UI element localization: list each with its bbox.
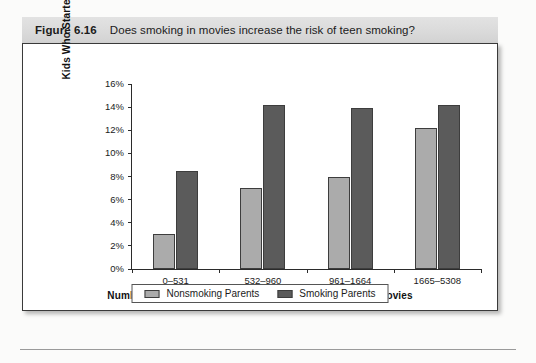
legend-item: Smoking Parents bbox=[277, 288, 375, 299]
y-axis-tick-label: 2% bbox=[110, 240, 128, 252]
y-axis-ticks: 0%2%4%6%8%10%12%14%16% bbox=[23, 44, 131, 312]
y-axis-tick-label: 8% bbox=[110, 171, 128, 183]
page-divider-rule bbox=[20, 349, 516, 350]
figure-caption: Does smoking in movies increase the risk… bbox=[110, 24, 415, 36]
x-axis-tick-label: 1665–5308 bbox=[394, 275, 481, 286]
bar bbox=[176, 171, 198, 269]
y-axis-tick: 16% bbox=[105, 78, 131, 90]
bar bbox=[328, 177, 350, 270]
y-axis-tick-label: 4% bbox=[110, 217, 128, 229]
x-axis-tick-mark bbox=[219, 269, 220, 273]
y-axis-tick-label: 16% bbox=[105, 78, 128, 90]
y-axis-tick: 6% bbox=[110, 194, 131, 206]
y-axis-tick: 4% bbox=[110, 217, 131, 229]
bar bbox=[438, 105, 460, 269]
legend-item: Nonsmoking Parents bbox=[145, 288, 260, 299]
y-axis-tick: 8% bbox=[110, 171, 131, 183]
figure-block: Figure 6.16 Does smoking in movies incre… bbox=[22, 17, 498, 311]
x-axis-tick-mark bbox=[394, 269, 395, 273]
x-axis-tick-mark bbox=[132, 269, 133, 273]
x-axis-tick-mark bbox=[481, 269, 482, 273]
y-axis-tick: 14% bbox=[105, 101, 131, 113]
bars-area bbox=[132, 84, 481, 269]
figure-panel: Kids Who Started Smoking 0%2%4%6%8%10%12… bbox=[22, 43, 498, 311]
bar bbox=[263, 105, 285, 269]
legend-swatch bbox=[145, 290, 160, 298]
bar bbox=[351, 108, 373, 269]
y-axis-tick-label: 10% bbox=[105, 147, 128, 159]
y-axis-tick-label: 6% bbox=[110, 194, 128, 206]
y-axis-tick: 12% bbox=[105, 124, 131, 136]
y-axis-tick: 2% bbox=[110, 240, 131, 252]
chart-plot-area: Kids Who Started Smoking 0%2%4%6%8%10%12… bbox=[23, 44, 497, 310]
legend-label: Smoking Parents bbox=[299, 288, 375, 299]
x-axis-tick-mark bbox=[307, 269, 308, 273]
bar bbox=[415, 128, 437, 269]
bar bbox=[153, 234, 175, 269]
legend-swatch bbox=[277, 290, 292, 298]
bar bbox=[240, 188, 262, 269]
y-axis-tick-label: 12% bbox=[105, 124, 128, 136]
y-axis-tick: 0% bbox=[110, 263, 131, 275]
y-axis-tick: 10% bbox=[105, 147, 131, 159]
chart-legend: Nonsmoking ParentsSmoking Parents bbox=[132, 284, 389, 303]
y-axis-tick-label: 14% bbox=[105, 101, 128, 113]
y-axis-tick-label: 0% bbox=[110, 263, 128, 275]
legend-label: Nonsmoking Parents bbox=[167, 288, 260, 299]
figure-header: Figure 6.16 Does smoking in movies incre… bbox=[22, 17, 498, 43]
